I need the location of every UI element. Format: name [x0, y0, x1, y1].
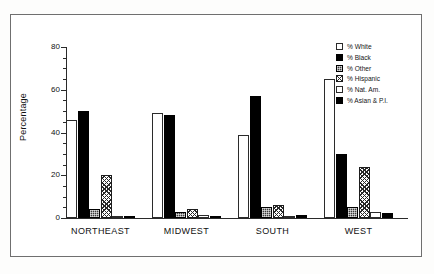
legend-item: % White	[336, 42, 416, 51]
legend-swatch-icon	[336, 54, 343, 61]
legend-swatch-icon	[336, 75, 343, 82]
bar	[175, 212, 186, 218]
bar	[370, 212, 381, 218]
category-label: SOUTH	[228, 226, 318, 236]
legend-item: % Asian & P.I.	[336, 96, 416, 105]
legend: % White% Black% Other% Hispanic% Nat. Am…	[336, 42, 416, 107]
legend-label: % White	[347, 43, 372, 50]
legend-label: % Asian & P.I.	[347, 97, 388, 104]
bar	[187, 209, 198, 218]
y-tick-label: 60	[38, 86, 60, 94]
bar	[78, 111, 89, 218]
bar-group	[238, 47, 307, 218]
legend-label: % Nat. Am.	[347, 86, 380, 93]
bar	[101, 175, 112, 218]
legend-item: % Black	[336, 53, 416, 62]
bar	[296, 215, 307, 218]
bar	[250, 96, 261, 218]
legend-swatch-icon	[336, 97, 343, 104]
category-label: WEST	[314, 226, 404, 236]
y-axis-title: Percentage	[18, 72, 28, 162]
category-label: NORTHEAST	[56, 226, 146, 236]
bar-group	[66, 47, 135, 218]
bar	[238, 135, 249, 218]
legend-swatch-icon	[336, 65, 343, 72]
legend-item: % Other	[336, 64, 416, 73]
bar	[164, 115, 175, 218]
legend-label: % Hispanic	[347, 75, 380, 82]
bar	[89, 209, 100, 218]
bar	[198, 215, 209, 218]
x-axis-line	[66, 218, 408, 219]
y-tick-label: 80	[38, 43, 60, 51]
figure: 020406080 Percentage NORTHEASTMIDWESTSOU…	[0, 0, 434, 274]
bar	[273, 205, 284, 218]
bar-group	[152, 47, 221, 218]
bar	[152, 113, 163, 218]
bar	[112, 216, 123, 218]
y-tick-major	[61, 218, 66, 219]
bar	[359, 167, 370, 218]
bar	[261, 207, 272, 218]
legend-swatch-icon	[336, 43, 343, 50]
bar	[284, 216, 295, 218]
bar	[210, 216, 221, 218]
plot-area: 020406080 Percentage NORTHEASTMIDWESTSOU…	[0, 0, 434, 274]
bar	[382, 213, 393, 218]
legend-item: % Nat. Am.	[336, 85, 416, 94]
legend-item: % Hispanic	[336, 74, 416, 83]
legend-label: % Other	[347, 65, 371, 72]
legend-swatch-icon	[336, 86, 343, 93]
y-tick-label: 0	[38, 214, 60, 222]
legend-label: % Black	[347, 54, 371, 61]
y-tick-label: 40	[38, 129, 60, 137]
bar	[336, 154, 347, 218]
category-label: MIDWEST	[142, 226, 232, 236]
bar	[66, 120, 77, 218]
bar	[324, 79, 335, 218]
y-tick-label: 20	[38, 171, 60, 179]
bar	[124, 216, 135, 218]
bar	[347, 207, 358, 218]
